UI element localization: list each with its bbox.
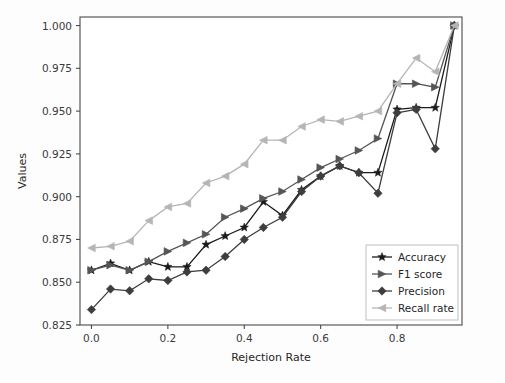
legend-label: Recall rate <box>398 302 454 314</box>
y-tick-label: 0.850 <box>42 276 72 288</box>
y-tick-label: 0.875 <box>42 233 72 245</box>
x-tick-label: 0.0 <box>83 332 100 344</box>
legend-label: F1 score <box>398 268 442 280</box>
legend-label: Accuracy <box>398 251 446 263</box>
y-tick-label: 0.825 <box>42 319 72 331</box>
legend: AccuracyF1 scorePrecisionRecall rate <box>366 245 458 320</box>
y-tick-label: 1.000 <box>42 20 72 32</box>
x-tick-label: 0.6 <box>312 332 329 344</box>
legend-label: Precision <box>398 285 445 297</box>
y-tick-label: 0.975 <box>42 62 72 74</box>
x-axis-label: Rejection Rate <box>231 351 311 364</box>
y-tick-label: 0.950 <box>42 105 72 117</box>
x-tick-label: 0.4 <box>236 332 253 344</box>
chart-figure: 0.00.20.40.60.80.8250.8500.8750.9000.925… <box>0 0 505 383</box>
y-axis-label: Values <box>16 153 29 189</box>
y-tick-label: 0.900 <box>42 191 72 203</box>
x-tick-label: 0.8 <box>389 332 406 344</box>
y-tick-label: 0.925 <box>42 148 72 160</box>
x-tick-label: 0.2 <box>160 332 177 344</box>
line-chart: 0.00.20.40.60.80.8250.8500.8750.9000.925… <box>0 0 505 383</box>
